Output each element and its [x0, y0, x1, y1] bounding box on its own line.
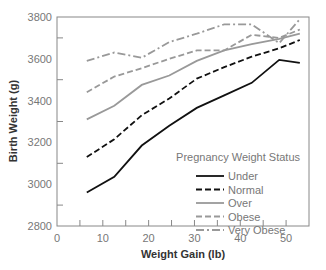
legend-item-label: Obese	[228, 211, 260, 223]
legend-item-label: Over	[228, 197, 252, 209]
y-tick-label: 3000	[28, 178, 52, 190]
x-tick-label: 10	[97, 232, 109, 244]
plot-frame	[57, 17, 309, 226]
x-axis-title: Weight Gain (lb)	[141, 248, 225, 260]
y-tick-label: 3800	[28, 11, 52, 23]
x-tick-label: 0	[54, 232, 60, 244]
series-line-under	[87, 60, 300, 193]
series-line-very-obese	[87, 19, 300, 61]
x-tick-label: 20	[143, 232, 155, 244]
plot-border	[57, 17, 309, 226]
series-line-over	[87, 34, 300, 120]
y-tick-label: 2800	[28, 220, 52, 232]
legend-title: Pregnancy Weight Status	[176, 151, 300, 163]
legend-item-label: Normal	[228, 184, 263, 196]
y-tick-label: 3600	[28, 53, 52, 65]
line-chart: 280030003200340036003800 01020304050 Wei…	[0, 0, 326, 270]
series-line-obese	[87, 30, 300, 93]
series-lines	[87, 19, 300, 192]
legend-item-label: Very Obese	[228, 224, 285, 236]
y-tick-label: 3200	[28, 136, 52, 148]
y-tick-label: 3400	[28, 95, 52, 107]
x-tick-label: 30	[188, 232, 200, 244]
legend-item-label: Under	[228, 170, 258, 182]
y-axis: 280030003200340036003800	[28, 11, 63, 232]
series-line-normal	[87, 40, 300, 157]
y-axis-title: Birth Weight (g)	[7, 80, 19, 163]
